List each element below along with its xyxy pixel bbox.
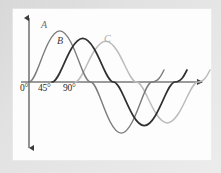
screenshot-root: 0° 45° 90° A B C [0,0,221,173]
curve-label-c: C [104,33,111,44]
x-tick-label-0deg: 0° [20,83,28,93]
x-tick-label-90deg: 90° [63,83,76,93]
sine-wave-plot [0,0,221,173]
curve-label-b: B [57,35,63,46]
x-tick-label-45deg: 45° [38,83,51,93]
curve-label-a: A [41,19,47,30]
